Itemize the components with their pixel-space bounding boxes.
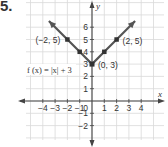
point-marker (65, 37, 70, 42)
y-tick-label: 5 (83, 35, 88, 45)
point-label: (−2, 5) (36, 35, 61, 45)
origin-label: 0 (83, 103, 88, 113)
x-tick-label: 1 (102, 103, 107, 113)
y-axis-label: y (95, 1, 100, 11)
point-label: (0, 3) (98, 60, 118, 70)
x-tick-label: 2 (114, 103, 119, 113)
y-tick-label: −2 (78, 121, 88, 131)
x-tick-label: −4 (38, 103, 48, 113)
y-axis-arrow-down-icon (90, 140, 95, 147)
x-tick-label: −2 (63, 103, 73, 113)
function-graph: xy−4−3−2−11234−2−11234560 (−2, 5)(0, 3)(… (0, 0, 168, 147)
point-marker (114, 37, 119, 42)
point-marker (90, 62, 95, 67)
x-tick-label: 4 (139, 103, 144, 113)
x-tick-label: 3 (127, 103, 132, 113)
x-axis-label: x (157, 89, 162, 99)
y-tick-label: 1 (83, 84, 88, 94)
function-label: f (x) = |x| + 3 (27, 65, 72, 75)
y-tick-label: 2 (83, 71, 88, 81)
x-axis-arrow-left-icon (18, 99, 25, 104)
y-tick-label: 6 (83, 22, 88, 32)
point-marker (102, 50, 107, 55)
x-tick-label: −3 (50, 103, 60, 113)
point-marker (77, 50, 82, 55)
y-axis-arrow-up-icon (90, 1, 95, 8)
point-label: (2, 5) (123, 36, 143, 46)
x-axis-arrow-right-icon (158, 99, 165, 104)
